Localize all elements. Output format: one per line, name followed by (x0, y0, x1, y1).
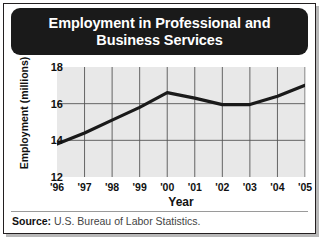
chart-figure: Employment in Professional and Business … (0, 0, 320, 238)
x-axis-tick-label: '02 (207, 181, 237, 193)
y-axis-tick-label: 16 (43, 98, 63, 110)
x-axis-tick-label: '04 (262, 181, 292, 193)
chart-region: Employment (millions) 12141618 '96'97'98… (4, 57, 315, 207)
x-axis-tick-label: '99 (125, 181, 155, 193)
line-chart-svg (57, 67, 305, 177)
x-axis-tick-label: '96 (42, 181, 72, 193)
y-axis-tick-label: 14 (43, 134, 63, 146)
chart-title: Employment in Professional and Business … (11, 15, 308, 49)
data-series-line (57, 85, 305, 144)
source-note: Source: U.S. Bureau of Labor Statistics. (12, 215, 308, 227)
plot-area (57, 67, 306, 177)
y-axis-title: Employment (millions) (18, 53, 30, 173)
x-axis-title: Year (57, 195, 305, 209)
source-value: U.S. Bureau of Labor Statistics. (54, 215, 201, 227)
x-axis-tick-label: '00 (152, 181, 182, 193)
x-axis-tick-label: '98 (97, 181, 127, 193)
source-divider (11, 211, 308, 212)
x-axis-tick-label: '03 (235, 181, 265, 193)
chart-title-banner: Employment in Professional and Business … (11, 8, 308, 55)
x-axis-tick-label: '01 (180, 181, 210, 193)
x-axis-tick-label: '05 (290, 181, 320, 193)
y-axis-tick-label: 18 (43, 61, 63, 73)
x-axis-tick-label: '97 (70, 181, 100, 193)
source-label: Source: (12, 215, 51, 227)
